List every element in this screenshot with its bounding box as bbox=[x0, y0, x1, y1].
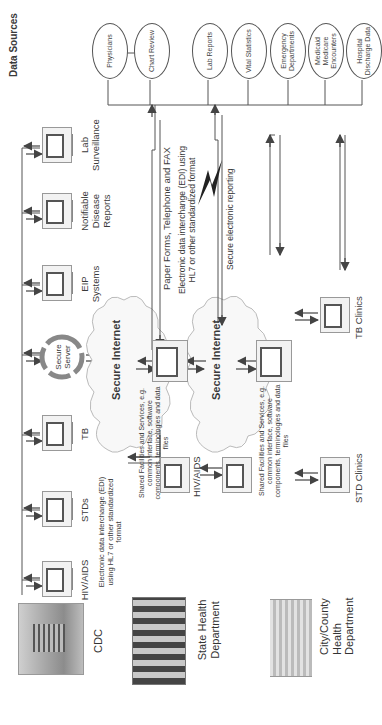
data-source-chart-review: Chart Review bbox=[134, 23, 170, 79]
computer-tb bbox=[42, 415, 72, 451]
data-source-physicians: Physicians bbox=[92, 23, 128, 79]
cdc-system-lab: Lab Surveillance bbox=[80, 113, 102, 177]
computer-hiv-aids bbox=[42, 561, 72, 597]
computer-eip bbox=[42, 265, 72, 301]
cdc-edi-note: Electronic data interchange (EDI) using … bbox=[98, 467, 124, 597]
edi-label: Electronic data interchange (EDI) using … bbox=[178, 145, 198, 295]
cdc-building-image bbox=[18, 603, 84, 675]
state-hiv-aids-label: HIV/AIDS bbox=[192, 456, 203, 497]
county-shared-note: Shared Facilities and Services, e.g. com… bbox=[258, 379, 290, 503]
computer-notifiable bbox=[42, 193, 72, 229]
county-computer bbox=[222, 457, 252, 493]
tb-clinics-label: TB Clinics bbox=[354, 296, 365, 339]
county-building-image bbox=[270, 599, 312, 677]
county-label: City/County Health Department bbox=[318, 595, 356, 655]
state-hiv-aids-computer bbox=[160, 457, 190, 493]
data-source-lab-reports: Lab Reports bbox=[192, 23, 228, 79]
internet-label-top: Secure Internet bbox=[110, 320, 123, 400]
data-source-emergency-departments: Emergency Departments bbox=[270, 23, 306, 79]
secure-server-label: Secure Server bbox=[54, 332, 72, 382]
county-hub-workstation bbox=[256, 340, 292, 382]
secure-reporting-label: Secure electronic reporting bbox=[226, 168, 236, 270]
data-source-vital-statistics: Vital Statistics bbox=[231, 23, 267, 79]
cdc-label: CDC bbox=[92, 629, 105, 653]
state-label: State Health Department bbox=[196, 595, 221, 665]
paper-forms-label: Paper Forms, Telephone and FAX bbox=[162, 147, 173, 290]
std-clinics-computer bbox=[320, 457, 350, 493]
cdc-system-hiv-aids: HIV/AIDS bbox=[80, 555, 91, 605]
computer-lab-surveillance bbox=[42, 127, 72, 163]
state-hub-workstation bbox=[152, 340, 188, 382]
cdc-system-stds: STDs bbox=[80, 485, 91, 535]
tb-clinics-computer bbox=[320, 297, 350, 333]
state-building-image bbox=[132, 597, 186, 685]
cdc-system-notifiable: Notifiable Disease Reports bbox=[80, 179, 113, 243]
computer-stds bbox=[42, 491, 72, 527]
internet-label-bottom: Secure Internet bbox=[210, 320, 223, 400]
cdc-system-eip: EIP Systems bbox=[80, 257, 102, 311]
cdc-system-tb: TB bbox=[80, 409, 91, 459]
data-sources-header: Data Sources bbox=[8, 13, 20, 77]
std-clinics-label: STD Clinics bbox=[354, 453, 365, 503]
data-source-hospital-discharge: Hospital Discharge Data bbox=[346, 23, 382, 79]
data-source-medicaid-medicare: Medicaid Medicare Encounters bbox=[308, 23, 344, 79]
